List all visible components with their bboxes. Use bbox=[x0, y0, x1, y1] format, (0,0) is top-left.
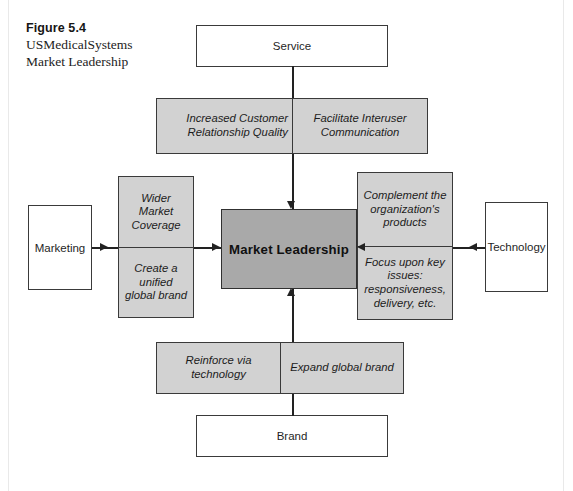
benefit-text-facilitate-interuser-communication: Facilitate Interuser Communication bbox=[297, 112, 423, 139]
arrowhead-right-into-center bbox=[357, 243, 365, 251]
benefit-panel-left[interactable]: Wider Market Coverage Create a unified g… bbox=[118, 176, 194, 318]
benefit-cell-top-left[interactable]: Increased Customer Relationship Quality bbox=[157, 99, 292, 153]
benefit-cell-bottom-left[interactable]: Reinforce via technology bbox=[157, 343, 280, 393]
driver-label-technology: Technology bbox=[487, 241, 545, 253]
center-label-market-leadership: Market Leadership bbox=[229, 242, 349, 257]
benefit-cell-right-bottom[interactable]: Focus upon key issues: responsiveness, d… bbox=[358, 246, 452, 319]
driver-box-technology[interactable]: Technology bbox=[485, 202, 548, 292]
benefit-text-increased-customer-relationship-quality: Increased Customer Relationship Quality bbox=[161, 112, 288, 139]
driver-box-brand[interactable]: Brand bbox=[196, 415, 388, 457]
benefit-text-create-a-unified-global-brand: Create a unified global brand bbox=[123, 262, 189, 303]
benefit-cell-bottom-right[interactable]: Expand global brand bbox=[280, 343, 403, 393]
arrowhead-technology-into-panel bbox=[469, 243, 477, 251]
benefit-panel-top[interactable]: Increased Customer Relationship Quality … bbox=[156, 98, 428, 154]
benefit-text-wider-market-coverage: Wider Market Coverage bbox=[123, 192, 189, 233]
driver-box-service[interactable]: Service bbox=[196, 25, 388, 67]
benefit-cell-left-top[interactable]: Wider Market Coverage bbox=[119, 177, 193, 247]
benefit-text-expand-global-brand: Expand global brand bbox=[290, 361, 394, 375]
driver-box-marketing[interactable]: Marketing bbox=[28, 205, 92, 290]
figure-title-line-2: Market Leadership bbox=[26, 53, 176, 70]
center-box-market-leadership[interactable]: Market Leadership bbox=[221, 209, 357, 289]
arrowhead-top-into-center bbox=[287, 201, 295, 209]
benefit-cell-right-top[interactable]: Complement the organization's products bbox=[358, 173, 452, 246]
figure-caption: Figure 5.4 USMedicalSystems Market Leade… bbox=[26, 20, 176, 70]
benefit-text-reinforce-via-technology: Reinforce via technology bbox=[161, 354, 276, 381]
arrowhead-left-into-center bbox=[212, 243, 220, 251]
page-edge-artifact-right bbox=[563, 0, 564, 491]
figure-diagram: Figure 5.4 USMedicalSystems Market Leade… bbox=[0, 0, 573, 491]
benefit-panel-bottom[interactable]: Reinforce via technology Expand global b… bbox=[156, 342, 404, 394]
benefit-text-focus-upon-key-issues: Focus upon key issues: responsiveness, d… bbox=[362, 256, 448, 310]
benefit-cell-top-right[interactable]: Facilitate Interuser Communication bbox=[292, 99, 427, 153]
arrowhead-marketing-into-panel bbox=[100, 243, 108, 251]
arrowhead-bottom-into-center bbox=[287, 288, 295, 296]
driver-label-marketing: Marketing bbox=[35, 242, 86, 254]
benefit-panel-right[interactable]: Complement the organization's products F… bbox=[357, 172, 453, 320]
benefit-cell-left-bottom[interactable]: Create a unified global brand bbox=[119, 247, 193, 317]
figure-number: Figure 5.4 bbox=[26, 20, 176, 36]
driver-label-service: Service bbox=[273, 40, 311, 52]
benefit-text-complement-the-organizations-products: Complement the organization's products bbox=[362, 189, 448, 230]
driver-label-brand: Brand bbox=[277, 430, 308, 442]
page-edge-artifact-left bbox=[8, 0, 9, 491]
figure-title-line-1: USMedicalSystems bbox=[26, 36, 176, 53]
